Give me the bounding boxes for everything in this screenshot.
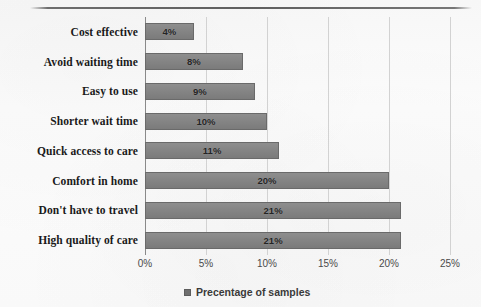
bar-row: Comfort in home20% [145,166,450,196]
bar-row: Easy to use9% [145,77,450,107]
plot-area: Cost effective4%Avoid waiting time8%Easy… [145,17,450,255]
bar[interactable]: 21% [145,232,401,249]
bar-row: Cost effective4% [145,17,450,47]
bar[interactable]: 20% [145,172,389,189]
bar[interactable]: 21% [145,202,401,219]
bar[interactable]: 4% [145,23,194,40]
x-tick-label: 0% [138,258,152,269]
chart-legend[interactable]: Precentage of samples [184,286,310,298]
bar-value-label: 11% [203,145,222,156]
horizontal-bar-chart: Cost effective4%Avoid waiting time8%Easy… [0,0,481,307]
bar-row: Don't have to travel21% [145,196,450,226]
category-label: Quick access to care [0,145,138,157]
category-label: High quality of care [0,234,138,246]
x-tick-label: 15% [318,258,338,269]
bar[interactable]: 10% [145,113,267,130]
category-label: Cost effective [0,26,138,38]
bar[interactable]: 11% [145,142,279,159]
category-label: Easy to use [0,85,138,97]
bar[interactable]: 9% [145,83,255,100]
gridline-25 [450,17,451,255]
bar-value-label: 21% [264,205,283,216]
x-tick-label: 25% [440,258,460,269]
bar-row: Quick access to care11% [145,136,450,166]
bar-row: High quality of care21% [145,225,450,255]
bar-row: Avoid waiting time8% [145,47,450,77]
bar-value-label: 10% [196,116,215,127]
bar[interactable]: 8% [145,53,243,70]
bar-value-label: 20% [257,175,276,186]
bar-value-label: 8% [187,56,201,67]
legend-label: Precentage of samples [196,286,310,298]
category-label: Don't have to travel [0,204,138,216]
bar-value-label: 21% [264,235,283,246]
category-label: Shorter wait time [0,115,138,127]
bar-value-label: 9% [193,86,207,97]
category-label: Avoid waiting time [0,56,138,68]
x-tick-label: 20% [379,258,399,269]
bar-value-label: 4% [163,26,177,37]
legend-swatch-icon [184,289,191,296]
bar-row: Shorter wait time10% [145,106,450,136]
x-tick-label: 5% [199,258,213,269]
category-label: Comfort in home [0,175,138,187]
x-tick-label: 10% [257,258,277,269]
